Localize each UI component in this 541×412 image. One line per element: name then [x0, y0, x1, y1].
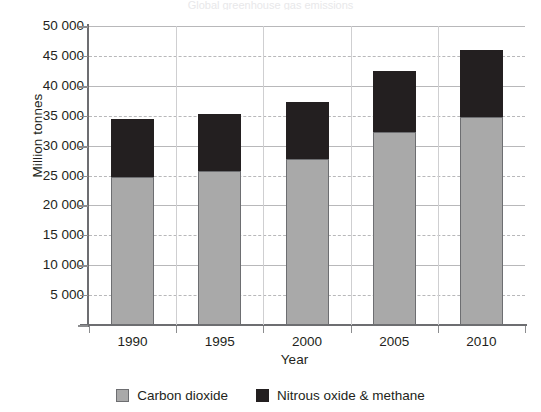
- bar-segment[interactable]: [460, 117, 503, 325]
- y-axis-tick: [80, 295, 88, 296]
- gridline-vertical: [438, 26, 439, 325]
- y-axis-tick: [78, 86, 88, 88]
- y-axis-tick: [80, 235, 88, 236]
- y-axis-tick-label: 10 000: [12, 258, 84, 271]
- bar-segment[interactable]: [198, 171, 241, 325]
- y-axis-tick: [78, 26, 88, 28]
- y-axis-tick-label: 15 000: [12, 228, 84, 241]
- x-axis-tick-label: 1995: [180, 334, 260, 349]
- y-axis-tick: [78, 146, 88, 148]
- bar-segment[interactable]: [111, 119, 154, 177]
- x-axis-tick: [89, 326, 90, 333]
- y-axis-tick-label: 35 000: [12, 109, 84, 122]
- y-axis-tick-label: 5 000: [12, 288, 84, 301]
- y-axis-tick-labels: 5 00010 00015 00020 00025 00030 00035 00…: [12, 0, 84, 412]
- bar-stack[interactable]: [198, 26, 241, 325]
- gridline-vertical: [351, 26, 352, 325]
- legend-swatch: [256, 389, 269, 402]
- x-axis-tick: [525, 326, 526, 333]
- y-axis-tick: [80, 56, 88, 57]
- bar-segment[interactable]: [373, 71, 416, 133]
- y-axis-tick: [78, 205, 88, 207]
- bar-stack[interactable]: [373, 26, 416, 325]
- bar-segment[interactable]: [286, 102, 329, 159]
- x-axis-tick-label: 2000: [267, 334, 347, 349]
- x-axis-title-text: Year: [233, 352, 308, 367]
- bar-stack[interactable]: [460, 26, 503, 325]
- y-axis-tick-label: 50 000: [12, 19, 84, 32]
- bar-segment[interactable]: [198, 114, 241, 171]
- x-axis-tick: [176, 326, 177, 333]
- x-axis-tick: [438, 326, 439, 333]
- y-axis-tick: [78, 265, 88, 267]
- y-axis-tick-label: 25 000: [12, 169, 84, 182]
- x-axis-tick-label: 2005: [354, 334, 434, 349]
- plot-area: [89, 26, 525, 325]
- y-axis-tick: [78, 325, 88, 327]
- chart-legend: Carbon dioxideNitrous oxide & methane: [0, 388, 541, 403]
- legend-item[interactable]: Carbon dioxide: [116, 388, 228, 403]
- legend-label: Carbon dioxide: [137, 388, 228, 403]
- legend-label: Nitrous oxide & methane: [277, 388, 425, 403]
- y-axis-tick-label: 45 000: [12, 49, 84, 62]
- x-axis-tick-label: 1990: [93, 334, 173, 349]
- stacked-bar-chart: Global greenhouse gas emissions Million …: [0, 0, 541, 412]
- bar-stack[interactable]: [286, 26, 329, 325]
- bar-segment[interactable]: [373, 132, 416, 325]
- legend-swatch: [116, 389, 129, 402]
- y-axis-tick: [80, 116, 88, 117]
- gridline-vertical: [263, 26, 264, 325]
- x-axis-tick-label: 2010: [441, 334, 521, 349]
- bar-segment[interactable]: [111, 177, 154, 325]
- y-axis-tick-label: 30 000: [12, 139, 84, 152]
- y-axis-tick-label: 40 000: [12, 79, 84, 92]
- x-axis-tick: [263, 326, 264, 333]
- gridline-vertical: [176, 26, 177, 325]
- legend-item[interactable]: Nitrous oxide & methane: [256, 388, 425, 403]
- bar-segment[interactable]: [286, 159, 329, 325]
- y-axis-tick-label: 20 000: [12, 198, 84, 211]
- x-axis-title: Year: [0, 352, 541, 367]
- y-axis-tick: [80, 176, 88, 177]
- bar-segment[interactable]: [460, 50, 503, 117]
- bar-stack[interactable]: [111, 26, 154, 325]
- x-axis-tick: [351, 326, 352, 333]
